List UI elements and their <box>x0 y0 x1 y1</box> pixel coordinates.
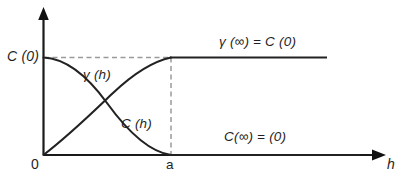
y-axis-sill-label: C (0) <box>7 49 39 63</box>
variogram-curve-label: γ (h) <box>83 68 111 82</box>
covariance-asymptote-label: C(∞) = (0) <box>224 130 286 144</box>
arrow-right-icon <box>372 150 386 161</box>
variogram-asymptote-label: γ (∞) = C (0) <box>219 35 296 49</box>
arrow-up-icon <box>38 7 49 20</box>
x-axis-label: h <box>387 157 395 171</box>
figure-container: C (0) γ (h) C (h) γ (∞) = C (0) C(∞) = (… <box>0 0 402 176</box>
range-tick-label: a <box>166 158 174 172</box>
origin-label: 0 <box>31 157 39 171</box>
plot-canvas <box>0 0 402 176</box>
covariance-curve-label: C (h) <box>121 117 152 131</box>
